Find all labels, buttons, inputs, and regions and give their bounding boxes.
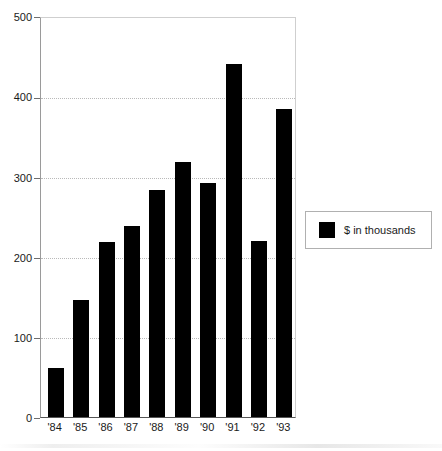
- x-tick-label-87: '87: [117, 422, 145, 433]
- bars-layer: [41, 18, 295, 417]
- bar-88: [149, 190, 165, 417]
- bar-86: [99, 242, 115, 417]
- bar-93: [276, 109, 292, 417]
- bar-90: [200, 183, 216, 417]
- plot-area: [40, 17, 296, 418]
- x-tick-label-85: '85: [66, 422, 94, 433]
- y-tick-label-400: 400: [0, 92, 32, 103]
- x-tick-label-92: '92: [244, 422, 272, 433]
- bar-84: [48, 368, 64, 417]
- x-tick-label-89: '89: [168, 422, 196, 433]
- x-tick-label-91: '91: [219, 422, 247, 433]
- bar-89: [175, 162, 191, 417]
- bar-91: [226, 64, 242, 417]
- y-tick-mark-0: [34, 418, 40, 419]
- legend-swatch-icon: [319, 222, 335, 238]
- x-tick-label-84: '84: [41, 422, 69, 433]
- bar-92: [251, 241, 267, 417]
- bar-chart-figure: 500 400 300 200 100 0 '84'85'86'87'88'89…: [0, 0, 442, 451]
- bar-85: [73, 300, 89, 417]
- x-tick-label-90: '90: [193, 422, 221, 433]
- y-tick-label-0: 0: [0, 413, 32, 424]
- x-tick-label-88: '88: [142, 422, 170, 433]
- legend: $ in thousands: [305, 211, 432, 249]
- y-tick-label-300: 300: [0, 173, 32, 184]
- y-tick-label-100: 100: [0, 333, 32, 344]
- y-tick-label-200: 200: [0, 253, 32, 264]
- x-axis: '84'85'86'87'88'89'90'91'92'93: [40, 422, 296, 440]
- legend-label: $ in thousands: [344, 224, 416, 236]
- y-tick-label-500: 500: [0, 12, 32, 23]
- bar-87: [124, 226, 140, 417]
- scan-artifact: [0, 444, 442, 448]
- x-tick-label-93: '93: [269, 422, 297, 433]
- x-tick-label-86: '86: [92, 422, 120, 433]
